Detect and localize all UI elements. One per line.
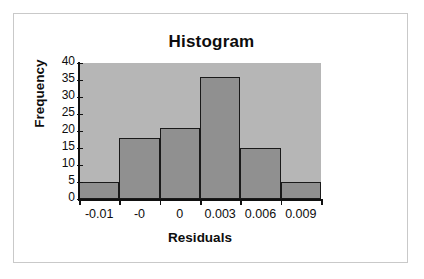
y-tick-label: 15 — [62, 140, 75, 152]
histogram-bar — [200, 77, 240, 199]
histogram-bar — [160, 128, 200, 199]
x-axis-title: Residuals — [78, 230, 322, 245]
y-tick-label: 25 — [62, 106, 75, 118]
y-tick-label: 10 — [62, 157, 75, 169]
y-tick-label: 20 — [62, 123, 75, 135]
histogram-bar — [240, 148, 280, 199]
y-tick-mark — [77, 148, 83, 149]
chart-title: Histogram — [14, 32, 409, 52]
y-tick-label: 0 — [68, 191, 75, 203]
y-axis-title: Frequency — [32, 44, 47, 144]
y-tick-label: 30 — [62, 89, 75, 101]
y-tick-mark — [77, 63, 83, 64]
chart-frame: Histogram 0510152025303540 -0.01-000.003… — [13, 13, 408, 263]
bars-layer — [79, 63, 321, 199]
y-tick-mark — [77, 80, 83, 81]
y-tick-label: 5 — [68, 174, 75, 186]
x-tick-mark — [240, 199, 242, 205]
plot-area — [79, 63, 321, 199]
x-tick-mark — [160, 199, 162, 205]
x-tick-mark — [79, 199, 81, 205]
y-tick-mark — [77, 165, 83, 166]
y-tick-label: 40 — [62, 55, 75, 67]
histogram-bar — [119, 138, 159, 199]
y-tick-mark — [77, 97, 83, 98]
x-tick-mark — [200, 199, 202, 205]
histogram-bar — [79, 182, 119, 199]
x-tick-mark — [321, 199, 323, 205]
y-tick-mark — [77, 182, 83, 183]
y-tick-mark — [77, 131, 83, 132]
x-tick-label: 0.009 — [267, 208, 335, 221]
x-tick-mark — [281, 199, 283, 205]
y-tick-label: 35 — [62, 72, 75, 84]
x-tick-mark — [119, 199, 121, 205]
y-tick-mark — [77, 114, 83, 115]
histogram-bar — [281, 182, 321, 199]
